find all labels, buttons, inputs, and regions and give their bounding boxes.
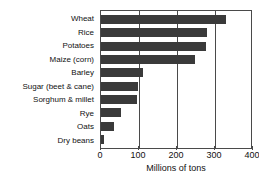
category-axis-labels: WheatRicePotatoesMaize (corn)BarleySugar… bbox=[0, 10, 97, 149]
bar bbox=[101, 122, 114, 131]
x-tick-label: 100 bbox=[130, 150, 145, 160]
bar-row bbox=[101, 135, 251, 144]
bar-row bbox=[101, 108, 251, 117]
bar-row bbox=[101, 95, 251, 104]
bar bbox=[101, 108, 121, 117]
category-label: Sorghum & millet bbox=[0, 95, 97, 104]
x-tick-label: 0 bbox=[97, 150, 102, 160]
category-label: Wheat bbox=[0, 14, 97, 23]
plot-area bbox=[100, 10, 252, 149]
category-label: Rice bbox=[0, 28, 97, 37]
x-axis-title: Millions of tons bbox=[100, 163, 252, 173]
x-axis-ticks: 0100200300400 bbox=[0, 150, 259, 162]
bar bbox=[101, 95, 137, 104]
category-label: Dry beans bbox=[0, 136, 97, 145]
category-label: Barley bbox=[0, 68, 97, 77]
category-label: Maize (corn) bbox=[0, 55, 97, 64]
bar-row bbox=[101, 55, 251, 64]
bar bbox=[101, 68, 143, 77]
bar bbox=[101, 135, 104, 144]
bar-row bbox=[101, 15, 251, 24]
category-label: Sugar (beet & cane) bbox=[0, 82, 97, 91]
category-label: Rye bbox=[0, 109, 97, 118]
bar-row bbox=[101, 28, 251, 37]
bar bbox=[101, 28, 207, 37]
category-label: Potatoes bbox=[0, 41, 97, 50]
bar-row bbox=[101, 82, 251, 91]
bar-row bbox=[101, 122, 251, 131]
bar bbox=[101, 42, 206, 51]
x-tick-label: 400 bbox=[244, 150, 259, 160]
bar-row bbox=[101, 68, 251, 77]
bar bbox=[101, 15, 226, 24]
category-label: Oats bbox=[0, 122, 97, 131]
x-tick-label: 300 bbox=[206, 150, 221, 160]
bar bbox=[101, 82, 138, 91]
x-tick-label: 200 bbox=[168, 150, 183, 160]
bar bbox=[101, 55, 195, 64]
bar-row bbox=[101, 42, 251, 51]
bar-series bbox=[101, 11, 251, 148]
bar-chart: WheatRicePotatoesMaize (corn)BarleySugar… bbox=[0, 0, 259, 182]
